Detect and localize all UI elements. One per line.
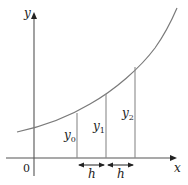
y-axis-arrow-icon	[31, 12, 37, 19]
interval-h-2: h	[107, 163, 134, 182]
arrow-right-icon	[99, 163, 105, 168]
interval-label: h	[117, 167, 125, 181]
interval-h-1: h	[78, 163, 105, 182]
x-axis-label: x	[174, 161, 181, 175]
ordinate-label: y0	[63, 128, 76, 144]
origin-label: 0	[23, 162, 30, 175]
y-axis: y	[23, 6, 37, 176]
arrow-left-icon	[107, 163, 113, 168]
arrow-left-icon	[78, 163, 84, 168]
y-axis-label: y	[23, 6, 31, 20]
ordinate-y0: y0	[63, 113, 77, 158]
ordinate-label: y2	[121, 106, 134, 122]
interval-label: h	[88, 167, 96, 181]
function-curve	[17, 8, 177, 132]
ordinate-y1: y1	[92, 94, 106, 158]
ordinate-label: y1	[92, 119, 105, 135]
arrow-right-icon	[128, 163, 134, 168]
strip-diagram: y x 0 y0 y1 y2 h h	[0, 0, 188, 185]
